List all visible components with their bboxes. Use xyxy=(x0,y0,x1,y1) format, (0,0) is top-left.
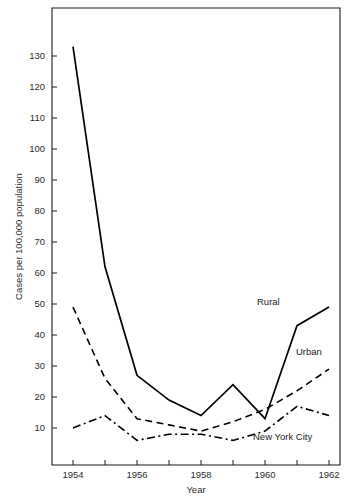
x-axis-title: Year xyxy=(186,484,205,495)
y-axis-tick-label: 100 xyxy=(29,143,45,154)
y-axis-tick-label: 130 xyxy=(29,50,45,61)
x-axis-tick-label: 1956 xyxy=(126,469,147,480)
series-line-rural xyxy=(73,47,329,419)
y-axis-tick-label: 10 xyxy=(34,422,45,433)
y-axis-tick-label: 40 xyxy=(34,329,45,340)
line-chart: 1020304050607080901001101201301954195619… xyxy=(0,0,361,504)
series-line-urban xyxy=(73,307,329,431)
y-axis-tick-label: 120 xyxy=(29,81,45,92)
plot-frame xyxy=(52,8,340,465)
y-axis-tick-label: 60 xyxy=(34,267,45,278)
y-axis-title: Cases per 100,000 population xyxy=(13,173,24,300)
y-axis-tick-label: 50 xyxy=(34,298,45,309)
x-axis-tick-label: 1960 xyxy=(254,469,275,480)
y-axis-tick-label: 30 xyxy=(34,360,45,371)
x-axis-tick-label: 1954 xyxy=(62,469,83,480)
chart-canvas: 1020304050607080901001101201301954195619… xyxy=(0,0,361,504)
x-axis-tick-label: 1958 xyxy=(190,469,211,480)
y-axis-tick-label: 80 xyxy=(34,205,45,216)
y-axis-tick-label: 110 xyxy=(30,112,45,123)
y-axis-tick-label: 90 xyxy=(34,174,45,185)
series-label-rural: Rural xyxy=(257,296,280,307)
y-axis-tick-label: 20 xyxy=(34,391,45,402)
series-label-new-york-city: New York City xyxy=(253,431,312,442)
x-axis-tick-label: 1962 xyxy=(318,469,339,480)
y-axis-tick-label: 70 xyxy=(34,236,45,247)
series-label-urban: Urban xyxy=(296,346,322,357)
